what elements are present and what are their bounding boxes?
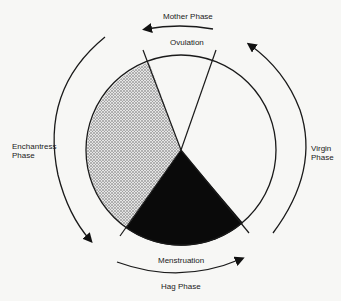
- ovulation-label: Ovulation: [170, 38, 204, 48]
- enchantress-label-2: Phase: [12, 151, 35, 161]
- menstruation-label: Menstruation: [158, 256, 204, 266]
- virgin-label-2: Phase: [311, 153, 334, 163]
- hag-phase-label: Hag Phase: [161, 282, 201, 292]
- mother-phase-arrow: [146, 26, 213, 29]
- mother-phase-label: Mother Phase: [163, 12, 213, 22]
